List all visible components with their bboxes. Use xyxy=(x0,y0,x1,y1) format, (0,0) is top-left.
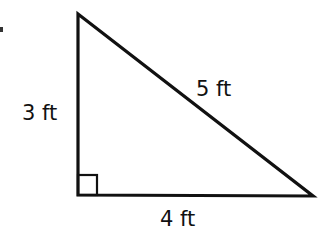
stray-mark xyxy=(0,27,3,32)
right-angle-marker xyxy=(78,175,97,195)
vertical-leg-label: 3 ft xyxy=(22,101,57,125)
horizontal-leg-label: 4 ft xyxy=(160,207,195,231)
right-triangle-diagram: 3 ft 5 ft 4 ft xyxy=(0,0,331,249)
hypotenuse-label: 5 ft xyxy=(196,77,231,101)
triangle xyxy=(78,14,313,196)
